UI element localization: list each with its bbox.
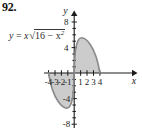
y-axis-arrow-icon: [71, 11, 77, 17]
x-tick-label-1: 1: [78, 77, 83, 87]
y-tick-label-4: 4: [64, 43, 69, 53]
x-tick-label--1: -1: [64, 77, 72, 87]
y-tick-label--8: -8: [63, 119, 71, 129]
radicand: 16 − x2: [34, 29, 65, 41]
plot-svg: -4 -3 -2 -1 1 2 3 4 8 4 -4 -8 x y: [0, 0, 142, 131]
y-tick-label--4: -4: [63, 94, 71, 104]
equation-lhs: y: [9, 30, 13, 41]
y-axis-label: y: [62, 5, 68, 16]
radical-expression: √16 − x2: [29, 29, 66, 42]
x-axis-label: x: [131, 75, 137, 86]
equation-label: y = x√16 − x2: [9, 29, 65, 42]
figure-container: 92. y = x√16 − x2: [0, 0, 142, 131]
x-tick-label-3: 3: [91, 77, 96, 87]
x-tick-label-4: 4: [98, 77, 103, 87]
y-tick-label-8: 8: [64, 17, 69, 27]
radicand-exponent: 2: [61, 29, 65, 37]
equation-equals: =: [16, 30, 22, 41]
x-tick-label-2: 2: [85, 77, 90, 87]
problem-number: 92.: [2, 1, 16, 13]
radicand-main: 16 − x: [35, 30, 61, 41]
